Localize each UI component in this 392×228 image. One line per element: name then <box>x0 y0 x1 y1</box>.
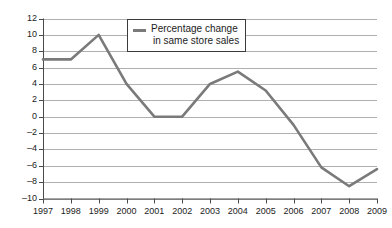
x-tick-label-1999: 1999 <box>84 206 114 216</box>
y-axis-ticks <box>39 20 43 200</box>
y-tick-label--2: –2 <box>27 127 37 137</box>
x-tick-label-2005: 2005 <box>251 206 281 216</box>
legend-label-line-1: Percentage change <box>151 23 238 34</box>
y-tick-label-0: 0 <box>32 111 37 121</box>
y-tick-label--6: –6 <box>27 160 37 170</box>
x-tick-label-2000: 2000 <box>112 206 142 216</box>
x-tick-label-2001: 2001 <box>139 206 169 216</box>
legend-line-swatch-icon <box>133 29 146 32</box>
y-tick-label--4: –4 <box>27 143 37 153</box>
x-tick-label-2008: 2008 <box>334 206 364 216</box>
y-tick-label-12: 12 <box>27 13 37 23</box>
x-tick-label-2007: 2007 <box>306 206 336 216</box>
y-tick-label-10: 10 <box>27 29 37 39</box>
x-tick-label-2004: 2004 <box>223 206 253 216</box>
x-tick-label-2009: 2009 <box>362 206 392 216</box>
legend-label-line-2: in same store sales <box>151 35 239 46</box>
y-tick-label--8: –8 <box>27 176 37 186</box>
x-tick-label-2002: 2002 <box>167 206 197 216</box>
legend-label: Percentage change in same store sales <box>151 23 239 47</box>
y-tick-label-6: 6 <box>32 62 37 72</box>
series-percentage-change-line <box>43 35 377 186</box>
chart-legend: Percentage change in same store sales <box>127 19 246 52</box>
y-tick-label-4: 4 <box>32 78 37 88</box>
x-tick-label-2003: 2003 <box>195 206 225 216</box>
y-tick-label-8: 8 <box>32 45 37 55</box>
x-tick-label-1998: 1998 <box>56 206 86 216</box>
y-tick-label-2: 2 <box>32 94 37 104</box>
data-series-line <box>43 35 377 186</box>
x-tick-label-2006: 2006 <box>279 206 309 216</box>
y-tick-label--10: –10 <box>22 193 37 203</box>
x-tick-label-1997: 1997 <box>28 206 58 216</box>
